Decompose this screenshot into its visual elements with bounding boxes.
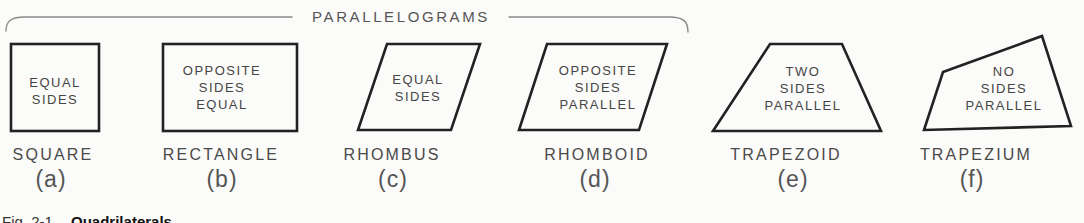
square-name-label: SQUARE bbox=[13, 146, 94, 164]
rhombus-property-text: EQUAL SIDES bbox=[392, 71, 444, 105]
trapezium-name-label: TRAPEZIUM bbox=[920, 146, 1032, 164]
figure-caption-number: Fig. 2-1. bbox=[2, 213, 57, 223]
figure-caption: Fig. 2-1.Quadrilaterals bbox=[2, 214, 172, 223]
trapezium-property-text: NO SIDES PARALLEL bbox=[966, 63, 1043, 114]
trapezium-letter-label: (f) bbox=[960, 166, 985, 193]
parallelograms-brace-left bbox=[6, 17, 292, 31]
parallelograms-brace-right bbox=[509, 17, 688, 32]
trapezoid-property-text: TWO SIDES PARALLEL bbox=[765, 63, 842, 114]
parallelograms-label: PARALLELOGRAMS bbox=[312, 8, 490, 25]
rectangle-property-text: OPPOSITE SIDES EQUAL bbox=[183, 62, 261, 113]
rectangle-name-label: RECTANGLE bbox=[163, 146, 279, 164]
trapezoid-name-label: TRAPEZOID bbox=[730, 146, 841, 164]
quadrilaterals-diagram: PARALLELOGRAMS EQUAL SIDES OPPOSITE SIDE… bbox=[0, 0, 1084, 223]
rhomboid-name-label: RHOMBOID bbox=[544, 146, 650, 164]
diagram-drawing bbox=[0, 0, 1084, 223]
rhombus-name-label: RHOMBUS bbox=[343, 146, 440, 164]
rhomboid-letter-label: (d) bbox=[579, 166, 610, 193]
rectangle-letter-label: (b) bbox=[206, 166, 237, 193]
square-property-text: EQUAL SIDES bbox=[29, 74, 81, 108]
trapezoid-letter-label: (e) bbox=[777, 166, 808, 193]
square-letter-label: (a) bbox=[35, 166, 66, 193]
figure-caption-title: Quadrilaterals bbox=[71, 213, 172, 223]
rhombus-letter-label: (c) bbox=[378, 166, 408, 193]
rhomboid-property-text: OPPOSITE SIDES PARALLEL bbox=[559, 62, 637, 113]
